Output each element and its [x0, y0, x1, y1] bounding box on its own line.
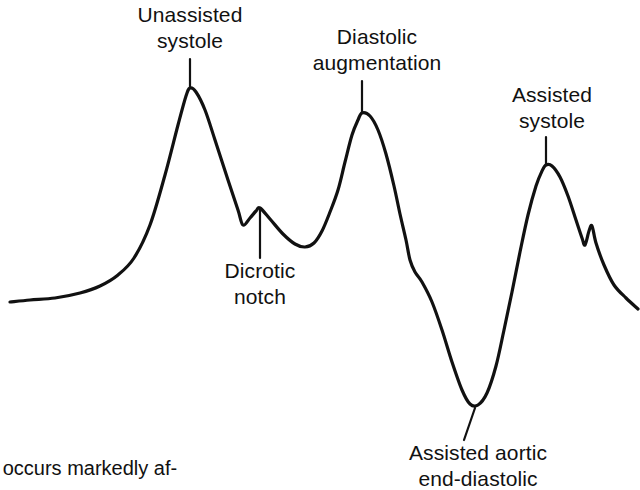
label-diastolic-augmentation-line1: Diastolic [337, 25, 417, 48]
label-assisted-systole: Assisted systole [487, 82, 617, 134]
label-assisted-aortic-end-diastolic: Assisted aortic end-diastolic [388, 440, 568, 490]
label-dicrotic-notch: Dicrotic notch [195, 258, 325, 310]
label-diastolic-augmentation-line2: augmentation [287, 50, 467, 76]
label-assisted-systole-line2: systole [487, 108, 617, 134]
label-dicrotic-notch-line1: Dicrotic [225, 259, 296, 282]
label-unassisted-systole-line2: systole [110, 28, 270, 54]
label-diastolic-augmentation: Diastolic augmentation [287, 24, 467, 76]
label-assisted-aortic-ed-line1: Assisted aortic [409, 441, 547, 464]
label-dicrotic-notch-line2: notch [195, 284, 325, 310]
caption-text: n occurs markedly af- [0, 455, 306, 481]
label-unassisted-systole-line1: Unassisted [138, 3, 243, 26]
label-unassisted-systole: Unassisted systole [110, 2, 270, 54]
label-assisted-systole-line1: Assisted [512, 83, 592, 106]
label-assisted-aortic-ed-line2: end-diastolic [388, 466, 568, 490]
waveform-figure: Unassisted systole Diastolic augmentatio… [0, 0, 640, 490]
